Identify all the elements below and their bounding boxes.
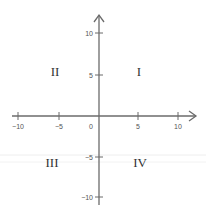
quadrant-iii-label: III — [46, 155, 59, 170]
quadrant-ii-label: II — [51, 64, 60, 79]
quadrant-i-label: I — [137, 64, 141, 79]
x-tick-label: −5 — [55, 123, 63, 130]
quadrant-iv-label: IV — [133, 155, 147, 170]
y-tick-label: 5 — [89, 72, 93, 79]
coordinate-plane: −10 −5 5 10 0 10 5 −5 −10 II I III IV — [0, 0, 206, 219]
x-tick-label: −10 — [12, 123, 24, 130]
x-tick-label: 5 — [136, 123, 140, 130]
origin-label: 0 — [89, 123, 93, 130]
y-tick-label: −5 — [85, 154, 93, 161]
x-tick-label: 10 — [174, 123, 182, 130]
y-tick-label: 10 — [85, 30, 93, 37]
y-tick-label: −10 — [81, 194, 93, 201]
